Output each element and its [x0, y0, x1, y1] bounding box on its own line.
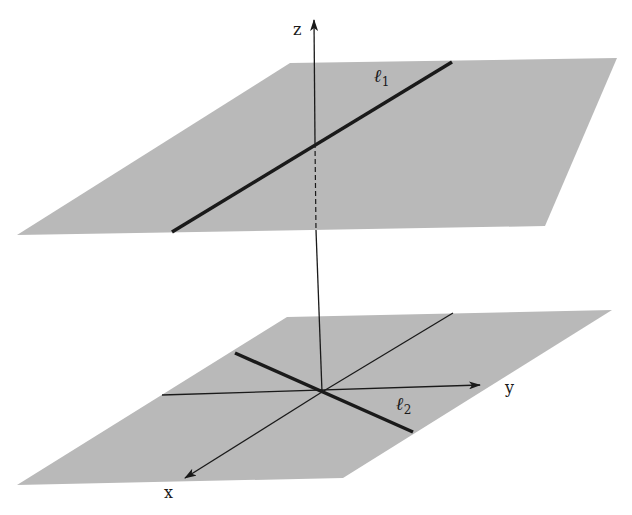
x-axis-label: x [164, 483, 173, 502]
skew-lines-diagram: z y x ℓ1 ℓ2 [0, 0, 632, 515]
lower-plane [17, 310, 612, 485]
y-axis-label: y [504, 378, 514, 397]
z-axis-label: z [293, 20, 301, 39]
upper-plane [17, 58, 617, 235]
